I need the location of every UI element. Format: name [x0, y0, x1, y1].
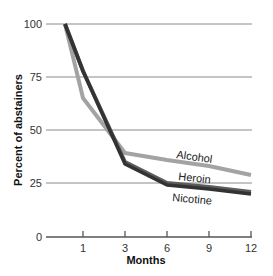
x-tick-9: 9: [206, 242, 212, 254]
y-tick-75: 75: [30, 71, 42, 83]
series-alcohol-line: [65, 24, 251, 175]
x-axis-title: Months: [126, 254, 165, 266]
x-tick-6: 6: [164, 242, 170, 254]
gridlines: [46, 24, 252, 183]
x-tick-1: 1: [80, 242, 86, 254]
x-tick-3: 3: [122, 242, 128, 254]
y-tick-50: 50: [30, 124, 42, 136]
y-tick-0: 0: [36, 231, 42, 243]
line-chart: 100 75 50 25 0 1 3 6 9 12 Months Percent…: [0, 0, 273, 276]
y-tick-25: 25: [30, 177, 42, 189]
y-tick-100: 100: [24, 18, 42, 30]
series-label-nicotine: Nicotine: [172, 191, 213, 206]
y-axis-title: Percent of abstainers: [12, 74, 24, 186]
x-axis: [46, 231, 252, 237]
x-tick-12: 12: [245, 242, 257, 254]
